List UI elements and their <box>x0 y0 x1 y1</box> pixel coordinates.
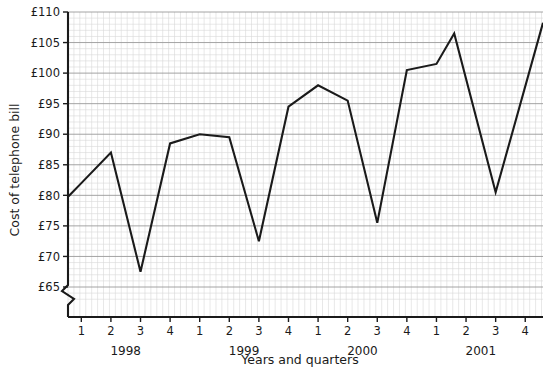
x-axis-quarter-label: 3 <box>374 324 381 338</box>
y-axis-tick-label: £70 <box>38 250 60 264</box>
y-axis-tick-label: £85 <box>38 158 60 172</box>
x-axis-quarter-label: 2 <box>344 324 351 338</box>
x-axis-quarter-label: 4 <box>285 324 292 338</box>
x-axis-quarter-label: 3 <box>492 324 499 338</box>
x-axis-quarter-label: 3 <box>255 324 262 338</box>
x-axis-year-label: 1998 <box>110 344 141 358</box>
x-axis-quarter-label: 1 <box>433 324 440 338</box>
telephone-bill-line-chart: £65£70£75£80£85£90£95£100£105£110 123412… <box>0 0 549 372</box>
x-axis-quarter-label: 4 <box>522 324 529 338</box>
x-axis-quarter-label: 1 <box>78 324 85 338</box>
y-axis-tick-label: £105 <box>31 36 60 50</box>
y-axis-tick-label: £95 <box>38 97 60 111</box>
y-axis-tick-label: £80 <box>38 189 60 203</box>
x-axis-quarter-label: 2 <box>226 324 233 338</box>
y-axis-tick-label: £65 <box>38 280 60 294</box>
x-axis-title: Years and quarters <box>240 352 358 367</box>
y-axis-tick-label: £100 <box>31 66 60 80</box>
y-axis-tick-label: £90 <box>38 127 60 141</box>
x-axis-quarter-label: 2 <box>107 324 114 338</box>
x-axis-year-label: 2001 <box>466 344 497 358</box>
y-axis-title: Cost of telephone bill <box>7 104 22 237</box>
chart-canvas: £65£70£75£80£85£90£95£100£105£110 123412… <box>0 0 549 372</box>
y-axis-tick-label: £110 <box>31 5 60 19</box>
x-axis-quarter-label: 4 <box>166 324 173 338</box>
x-axis-quarter-label: 4 <box>403 324 410 338</box>
x-axis-quarter-label: 1 <box>196 324 203 338</box>
x-axis-quarter-label: 3 <box>137 324 144 338</box>
x-axis-quarter-label: 1 <box>314 324 321 338</box>
y-axis-tick-label: £75 <box>38 219 60 233</box>
x-axis-quarter-label: 2 <box>462 324 469 338</box>
